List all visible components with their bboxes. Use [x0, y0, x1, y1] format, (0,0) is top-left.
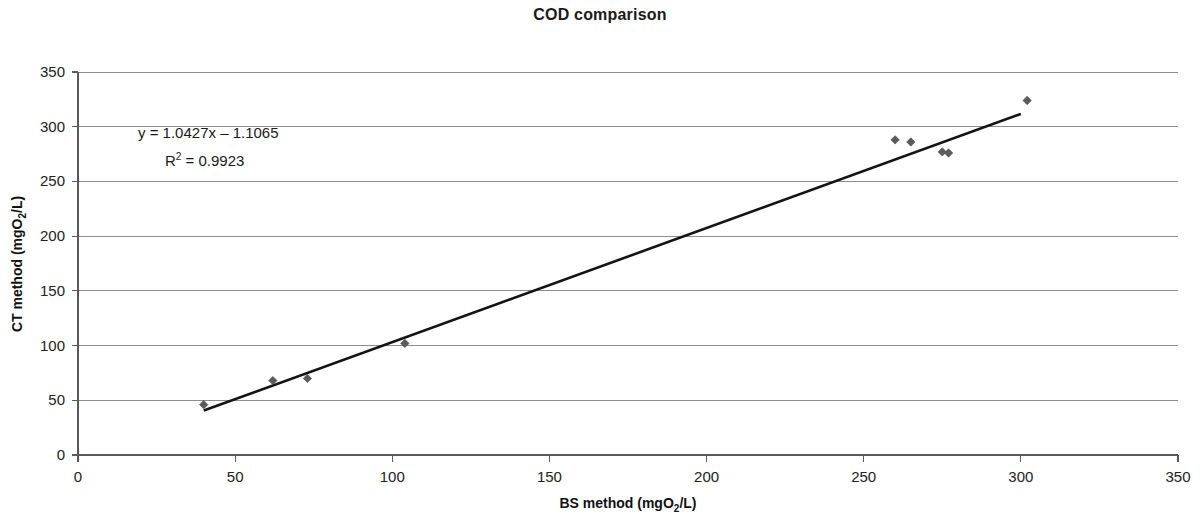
- data-point-marker: [1023, 96, 1031, 104]
- x-tick-label: 150: [537, 468, 562, 485]
- y-tick-labels-group: 050100150200250300350: [40, 63, 65, 463]
- x-tick-label: 50: [227, 468, 244, 485]
- x-tick-label: 250: [851, 468, 876, 485]
- x-tick-label: 350: [1165, 468, 1190, 485]
- y-tick-label: 250: [40, 172, 65, 189]
- data-point-marker: [944, 149, 952, 157]
- x-tick-label: 300: [1008, 468, 1033, 485]
- y-tick-label: 350: [40, 63, 65, 80]
- data-point-marker: [891, 136, 899, 144]
- y-axis-title: CT method (mgO2/L): [9, 196, 28, 332]
- scatter-plot: 050100150200250300350 050100150200250300…: [0, 0, 1200, 521]
- x-tick-label: 200: [694, 468, 719, 485]
- data-point-marker: [200, 400, 208, 408]
- y-tick-label: 150: [40, 282, 65, 299]
- gridlines-group: [78, 72, 1178, 400]
- y-tick-label: 300: [40, 118, 65, 135]
- y-tick-label: 200: [40, 227, 65, 244]
- data-points-group: [200, 96, 1032, 409]
- y-tick-label: 100: [40, 337, 65, 354]
- x-tick-label: 100: [380, 468, 405, 485]
- r-squared-label: R2 = 0.9923: [165, 151, 244, 169]
- x-tick-labels-group: 050100150200250300350: [74, 468, 1191, 485]
- data-point-marker: [401, 339, 409, 347]
- regression-equation-label: y = 1.0427x – 1.1065: [138, 124, 279, 141]
- x-tick-label: 0: [74, 468, 82, 485]
- trend-line: [204, 114, 1021, 411]
- x-axis-title: BS method (mgO2/L): [559, 495, 696, 514]
- data-point-marker: [303, 374, 311, 382]
- y-tick-label: 50: [48, 391, 65, 408]
- y-tick-label: 0: [57, 446, 65, 463]
- data-point-marker: [907, 138, 915, 146]
- chart-container: COD comparison 050100150200250300350 050…: [0, 0, 1200, 521]
